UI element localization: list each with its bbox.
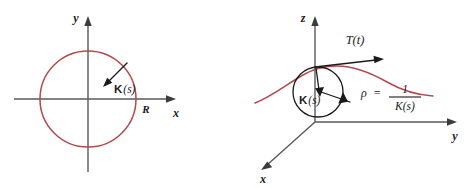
rho-symbol: ρ: [360, 86, 367, 100]
space-curve-diagram: z y x T(t) K(s): [237, 0, 473, 188]
y-axis: [315, 118, 457, 125]
x-axis-arrowhead: [261, 162, 272, 170]
x-axis: [261, 122, 315, 170]
y-axis-label: y: [71, 11, 79, 25]
z-axis-label: z: [300, 11, 306, 25]
curvature-vector-label: K(s): [114, 83, 136, 96]
fraction-numerator: 1: [402, 83, 408, 95]
curvature-vector-arg: (s): [123, 83, 135, 96]
y-axis-arrowhead: [84, 16, 91, 26]
x-axis-label: x: [172, 106, 179, 120]
curvature-vector-label: K(s): [299, 94, 321, 107]
y-axis: [84, 16, 91, 172]
z-axis-arrowhead: [311, 16, 318, 26]
x-axis: [14, 95, 176, 102]
curvature-vector-bold-K: K: [299, 94, 308, 106]
y-axis-arrowhead: [447, 118, 457, 125]
tangent-vector-arrowhead: [374, 56, 385, 63]
radius-rho-arrowhead: [338, 92, 348, 103]
x-axis-label: x: [259, 172, 266, 186]
rho-equation: ρ = 1 K(s): [360, 83, 421, 113]
tangent-vector-label: T(t): [346, 33, 365, 47]
x-axis-arrowhead: [166, 95, 176, 102]
curvature-vector-bold-K: K: [114, 83, 123, 95]
curvature-vector-arg: (s): [308, 94, 320, 107]
y-axis-label: y: [450, 129, 458, 143]
circle-plane-diagram: y x R K(s): [0, 0, 237, 188]
radius-label-R: R: [141, 103, 149, 115]
equals-sign: =: [373, 86, 381, 100]
radius-rho-arrow: [321, 92, 350, 103]
fraction-denominator: K(s): [394, 100, 415, 113]
figure-root: y x R K(s) z y: [0, 0, 473, 188]
tangent-vector-arrow: [315, 56, 384, 67]
